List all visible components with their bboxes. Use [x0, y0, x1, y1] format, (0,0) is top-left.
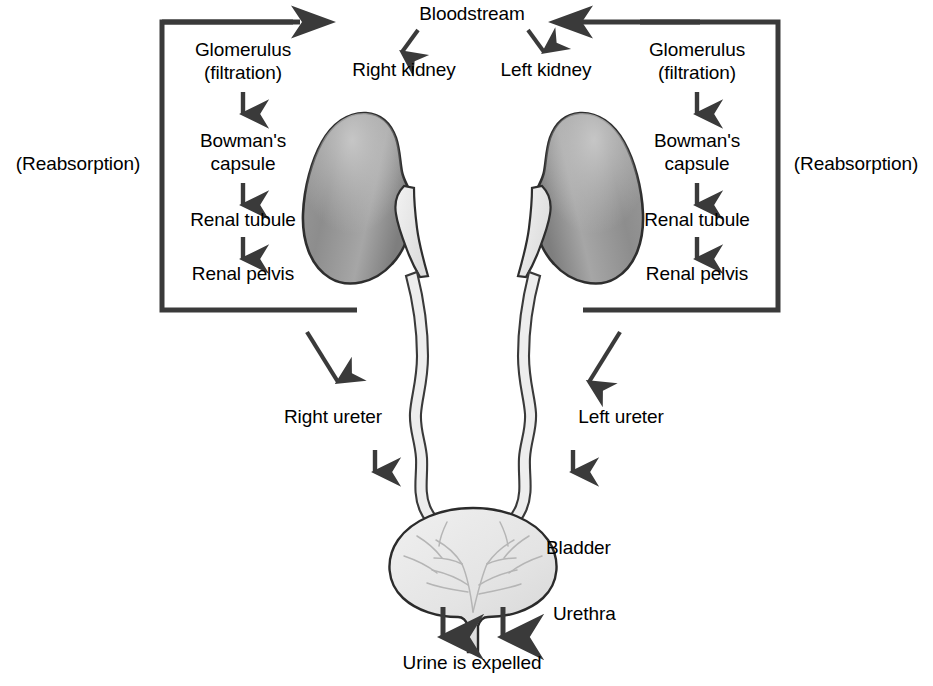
label-left-ureter: Left ureter	[578, 405, 664, 428]
label-bladder: Bladder	[546, 536, 611, 559]
ureter-pointer-arrows	[307, 332, 620, 382]
bladder-organ	[389, 508, 556, 652]
label-bloodstream: Bloodstream	[419, 2, 525, 25]
label-renal-pelvis-left: Renal pelvis	[192, 262, 294, 285]
urinary-system-illustration	[0, 0, 933, 686]
label-reabsorption-left: (Reabsorption)	[16, 152, 140, 175]
label-bowmans-right-line2: capsule	[665, 152, 730, 175]
label-bowmans-right-line1: Bowman's	[654, 129, 740, 152]
label-glomerulus-left-line1: Glomerulus	[195, 38, 291, 61]
arrow-diagonal-icon	[589, 332, 620, 382]
label-bowmans-left-line1: Bowman's	[200, 129, 286, 152]
label-left-kidney: Left kidney	[501, 58, 592, 81]
arrow-diagonal-icon	[307, 332, 338, 382]
label-urethra: Urethra	[553, 602, 616, 625]
left-kidney-organ	[518, 113, 643, 284]
right-ureter-tube	[406, 272, 459, 541]
label-bowmans-left-line2: capsule	[211, 152, 276, 175]
label-glomerulus-left-line2: (filtration)	[204, 61, 282, 84]
right-kidney-organ	[303, 113, 428, 284]
arrow-down-icon	[402, 30, 418, 52]
label-right-ureter: Right ureter	[284, 405, 382, 428]
arrow-down-icon	[528, 30, 544, 52]
label-glomerulus-right-line1: Glomerulus	[649, 38, 745, 61]
bloodstream-arrows	[402, 30, 544, 52]
left-ureter-tube	[487, 272, 540, 541]
label-renal-tubule-left: Renal tubule	[190, 208, 296, 231]
label-reabsorption-right: (Reabsorption)	[794, 152, 918, 175]
label-renal-pelvis-right: Renal pelvis	[646, 262, 748, 285]
bladder-inflow-arrows	[375, 450, 573, 472]
diagram-canvas: Bloodstream Right kidney Left kidney Glo…	[0, 0, 933, 686]
label-urine-expelled: Urine is expelled	[403, 651, 542, 674]
label-glomerulus-right-line2: (filtration)	[658, 61, 736, 84]
label-renal-tubule-right: Renal tubule	[644, 208, 750, 231]
label-right-kidney: Right kidney	[352, 58, 455, 81]
